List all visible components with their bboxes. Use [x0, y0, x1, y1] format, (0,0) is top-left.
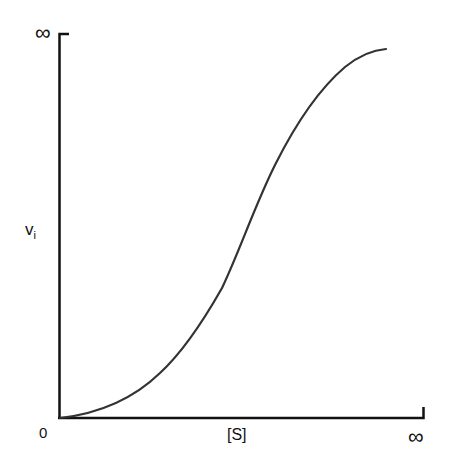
- origin-label: 0: [39, 424, 47, 441]
- sigmoid-curve: [60, 49, 386, 418]
- x-axis: [58, 407, 424, 418]
- y-axis-label-subscript: i: [34, 229, 36, 241]
- y-axis-label-main: v: [25, 220, 34, 239]
- x-axis-max-label: ∞: [408, 426, 424, 448]
- y-axis-max-label: ∞: [35, 22, 51, 44]
- x-axis-label: [S]: [227, 426, 247, 444]
- y-axis: [60, 34, 70, 418]
- y-axis-label: vi: [25, 220, 36, 241]
- chart-canvas: [0, 0, 453, 468]
